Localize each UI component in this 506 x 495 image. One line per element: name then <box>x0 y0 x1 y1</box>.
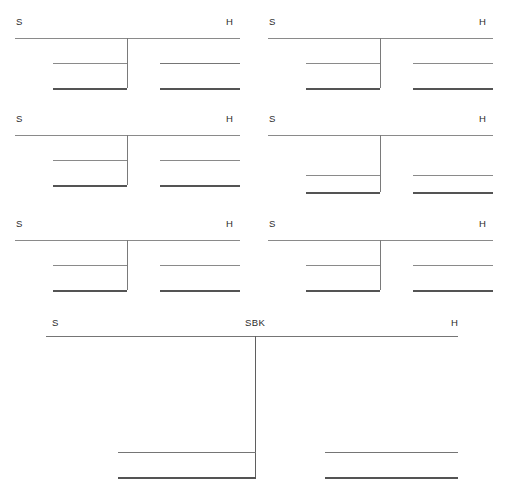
panel-7-label-center: SBK <box>245 318 265 328</box>
panel-7-segment-right-2 <box>325 452 458 453</box>
panel-7-segment-right-3 <box>325 477 458 479</box>
panel-7: SSBKH <box>0 0 506 495</box>
panel-7-segment-left-0 <box>118 452 256 453</box>
panel-7-label-right: H <box>451 318 458 328</box>
diagram-canvas: SHSHSHSHSHSHSSBKH <box>0 0 506 495</box>
panel-7-segment-left-1 <box>118 477 256 479</box>
panel-7-divider <box>255 336 256 477</box>
panel-7-baseline <box>46 336 458 337</box>
panel-7-label-left: S <box>52 318 59 328</box>
